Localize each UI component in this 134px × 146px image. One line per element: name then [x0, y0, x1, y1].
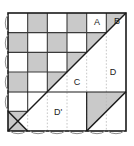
figure-root: A B C D D' [0, 0, 134, 146]
checker-cell-r0c3 [67, 13, 87, 33]
label-c: C [74, 77, 81, 87]
checker-cell-r1c0 [8, 33, 28, 53]
checker-cell-r1c2 [47, 33, 67, 53]
checker-cell-r3c0 [8, 72, 28, 92]
label-b: B [114, 16, 120, 26]
label-a: A [94, 17, 100, 27]
square-dissection-diagram: A B C D D' [0, 0, 134, 146]
label-d-prime: D' [54, 107, 62, 117]
checker-cell-r0c1 [28, 13, 48, 33]
checker-cell-r2c1 [28, 52, 48, 72]
label-d: D [110, 67, 117, 77]
